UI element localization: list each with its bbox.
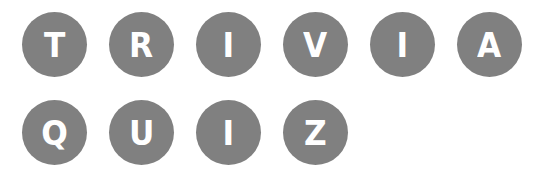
letter: Z [304,116,327,150]
letter-tile: I [196,12,261,77]
letter: T [44,28,65,62]
letter-tile: T [22,12,87,77]
letter-tile: R [109,12,174,77]
word-row-trivia: T R I V I A [0,12,544,78]
letter-tile: I [370,12,435,77]
letter: R [129,28,153,62]
letter: I [223,116,235,150]
letter-tile: Q [22,100,87,165]
letter-tile: I [196,100,261,165]
letter-tile: A [457,12,522,77]
letter-tile: Z [283,100,348,165]
word-row-quiz: Q U I Z [0,100,544,166]
letter: V [303,28,327,62]
letter-tile: U [109,100,174,165]
letter: A [477,28,501,62]
letter: Q [41,116,68,150]
letter: U [129,116,154,150]
letter-tile: V [283,12,348,77]
letter: I [223,28,235,62]
letter: I [397,28,409,62]
